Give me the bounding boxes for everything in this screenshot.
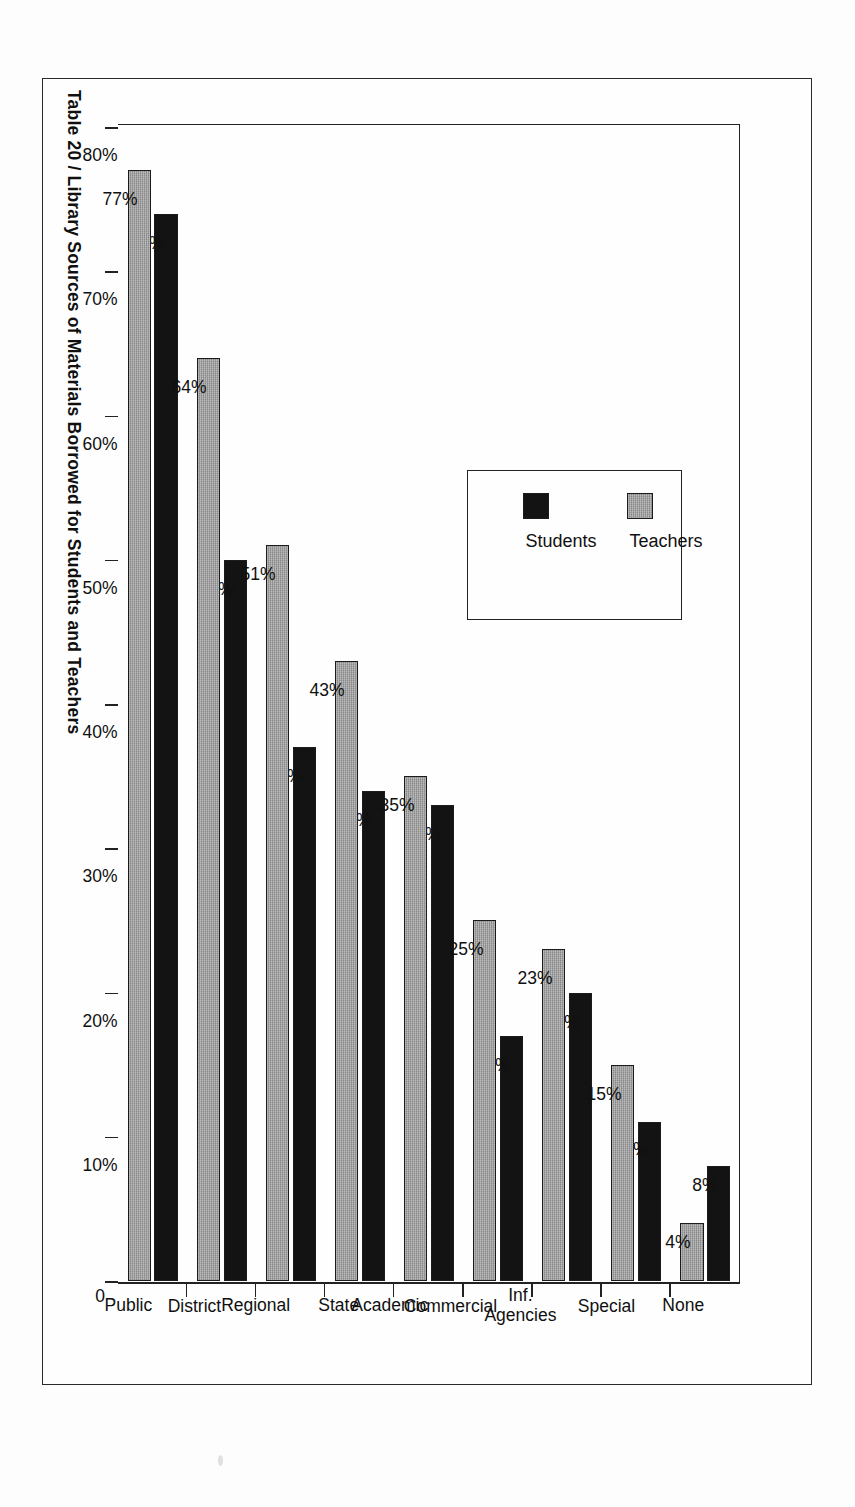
bar-students [569,993,592,1282]
bar-value-label: 15% [586,1083,621,1104]
legend-label-teachers: Teachers [630,531,703,552]
bar-students [224,560,247,1281]
bar-students [362,791,385,1281]
bar-value-label: 64% [172,376,207,397]
axis-tick-label: 10% [82,1154,117,1175]
axis-tick-mark [105,848,118,850]
bar-value-label: 35% [379,795,414,816]
category-label-line: Regional [221,1296,290,1316]
bar-value-label: 77% [103,189,138,210]
axis-tick-label: 40% [82,722,117,743]
category-label: Commercial [404,1296,497,1316]
chart-plot: 80%70%60%50%40%30%20%10%0 PublicDistrict… [118,124,740,1284]
bar-teachers [473,920,496,1281]
axis-tick-mark [105,560,118,562]
bar-students [431,805,454,1281]
category-label-line: Special [578,1296,635,1316]
bar-value-label: 43% [310,679,345,700]
axis-tick-mark [105,271,118,273]
category-label: District [167,1296,220,1316]
chart-legend: TeachersStudents [467,470,682,620]
axis-tick-mark [105,1281,118,1283]
axis-tick-label: 20% [82,1010,117,1031]
category-label-line: Commercial [404,1296,497,1316]
axis-tick-mark [105,704,118,706]
bar-teachers [128,170,151,1281]
legend-swatch-teachers [627,493,653,519]
axis-tick-mark [105,993,118,995]
bar-teachers [542,949,565,1281]
bar-value-label: 23% [517,968,552,989]
chart-plot-rotated-container: 80%70%60%50%40%30%20%10%0 PublicDistrict… [118,124,740,1284]
axis-tick-label: 80% [82,145,117,166]
bar-teachers [197,358,220,1281]
value-axis-ticks: 80%70%60%50%40%30%20%10%0 [0,124,118,1284]
bar-value-label: 25% [448,939,483,960]
axis-tick-label: 70% [82,289,117,310]
axis-tick-mark [105,416,118,418]
axis-tick-label: 0 [95,1286,105,1307]
category-label: Inf.Agencies [485,1286,557,1325]
bar-value-label: 4% [665,1232,690,1253]
bar-teachers [266,545,289,1281]
axis-tick-label: 50% [82,577,117,598]
scanned-page: Table 20 / Library Sources of Materials … [0,0,855,1507]
category-label: Special [578,1296,635,1316]
category-label: Regional [221,1296,290,1316]
axis-tick-mark [105,127,118,129]
bar-value-label: 51% [241,564,276,585]
bar-students [154,214,177,1281]
bar-students [293,747,316,1281]
axis-tick-label: 30% [82,866,117,887]
category-label-line: None [663,1296,705,1316]
bar-teachers [404,776,427,1281]
axis-tick-label: 60% [82,433,117,454]
legend-swatch-students [523,493,549,519]
bar-teachers [335,661,358,1281]
axis-tick-mark [105,1137,118,1139]
legend-label-students: Students [526,531,597,552]
category-label-line: Agencies [485,1306,557,1326]
category-label-line: District [167,1296,220,1316]
bar-value-label: 8% [692,1174,717,1195]
scan-artifact-speck [218,1455,223,1466]
category-label-line: Public [104,1296,152,1316]
category-label: Public [104,1296,152,1316]
category-label: None [663,1296,705,1316]
category-label-line: Inf. [485,1286,557,1306]
